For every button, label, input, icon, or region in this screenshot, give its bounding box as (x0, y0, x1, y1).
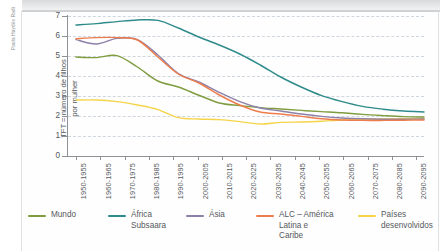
x-tick-label: 2070-2075 (371, 163, 380, 199)
y-tick-label: 6 (38, 31, 60, 40)
x-tick-mark (368, 156, 369, 160)
legend-swatch (186, 215, 204, 217)
legend-item[interactable]: Mundo (28, 210, 76, 221)
x-tick-mark (392, 156, 393, 160)
x-tick-mark (76, 156, 77, 160)
y-tick-mark (62, 156, 67, 157)
legend-label: Ásia (209, 210, 225, 221)
x-tick-label: 2060-2065 (347, 163, 356, 199)
legend-swatch (358, 215, 376, 217)
x-tick-label: 2080-2085 (395, 163, 404, 199)
x-tick-mark (270, 156, 271, 160)
y-tick-mark (62, 116, 67, 117)
series-line (76, 20, 424, 112)
x-tick-label: 2090-2095 (419, 163, 428, 199)
y-tick-label: 0 (38, 151, 60, 160)
series-lines (68, 16, 424, 156)
y-tick-label: 5 (38, 51, 60, 60)
y-tick-mark (62, 16, 67, 17)
x-tick-mark (125, 156, 126, 160)
legend-item[interactable]: África Subsaara (108, 210, 166, 231)
legend-label: África Subsaara (131, 210, 166, 231)
x-tick-label: 2020-2025 (249, 163, 258, 199)
x-tick-mark (198, 156, 199, 160)
y-tick-label: 2 (38, 111, 60, 120)
x-tick-label: 1960-1965 (104, 163, 113, 199)
x-tick-mark (100, 156, 101, 160)
x-tick-label: 1980-1985 (152, 163, 161, 199)
x-tick-mark (246, 156, 247, 160)
legend-item[interactable]: ALC – América Latina e Caribe (256, 210, 334, 242)
x-tick-mark (343, 156, 344, 160)
x-tick-mark (222, 156, 223, 160)
chart-legend: MundoÁfrica SubsaaraÁsiaALC – América La… (28, 210, 432, 250)
x-tick-mark (173, 156, 174, 160)
y-tick-mark (62, 56, 67, 57)
x-tick-label: 2000-2005 (201, 163, 210, 199)
legend-item[interactable]: Países desenvolvidos (358, 210, 433, 231)
x-tick-label: 2010-2015 (225, 163, 234, 199)
page-canvas: Paula Haydée Radi TFT = número de filhos… (0, 0, 440, 251)
y-tick-mark (62, 96, 67, 97)
x-tick-label: 1990-1995 (176, 163, 185, 199)
y-tick-label: 7 (38, 11, 60, 20)
legend-label: Países desenvolvidos (381, 210, 433, 231)
x-tick-label: 2050-2055 (322, 163, 331, 199)
y-tick-label: 4 (38, 71, 60, 80)
x-tick-label: 1950-1955 (79, 163, 88, 199)
y-tick-mark (62, 136, 67, 137)
y-tick-mark (62, 36, 67, 37)
x-tick-mark (319, 156, 320, 160)
y-tick-label: 3 (38, 91, 60, 100)
legend-swatch (28, 215, 46, 217)
x-tick-mark (416, 156, 417, 160)
legend-label: Mundo (51, 210, 76, 221)
legend-label: ALC – América Latina e Caribe (279, 210, 334, 242)
legend-swatch (256, 215, 274, 217)
x-tick-label: 2040-2045 (298, 163, 307, 199)
legend-swatch (108, 215, 126, 217)
x-tick-mark (149, 156, 150, 160)
legend-item[interactable]: Ásia (186, 210, 225, 221)
x-tick-label: 2030-2035 (274, 163, 283, 199)
x-tick-mark (295, 156, 296, 160)
x-tick-label: 1970-1975 (128, 163, 137, 199)
y-tick-mark (62, 76, 67, 77)
y-tick-label: 1 (38, 131, 60, 140)
